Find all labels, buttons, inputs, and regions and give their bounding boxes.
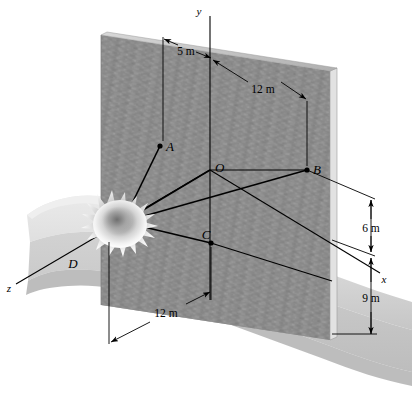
axis-label-y: y: [196, 5, 202, 17]
dimension-label-12m-top: 12 m: [251, 83, 274, 95]
axis-label-x: x: [381, 273, 387, 285]
dimension-label-12m-bottom: 12 m: [154, 307, 177, 319]
point-marker-B[interactable]: [304, 167, 309, 172]
point-label-B: B: [313, 162, 321, 177]
dimension-label-9m: 9 m: [362, 292, 380, 304]
dim-arrow-12mbot-left: [111, 322, 150, 342]
point-label-O: O: [215, 160, 225, 175]
point-label-D: D: [67, 256, 78, 271]
point-marker-A[interactable]: [157, 143, 162, 148]
wall-face-shade: [101, 35, 330, 340]
axis-label-z: z: [6, 282, 12, 294]
brick-wall: [101, 32, 337, 340]
point-label-A: A: [165, 139, 174, 154]
wall-side-thickness: [330, 68, 337, 340]
burst-core: [101, 207, 133, 235]
point-label-C: C: [202, 227, 211, 242]
dimension-label-5m: 5 m: [177, 45, 195, 57]
dimension-label-6m: 6 m: [362, 222, 380, 234]
figure-canvas: A B C D O y x z 5 m 12 m 6 m 9 m 12 m: [0, 0, 412, 408]
diagram-svg: A B C D O y x z 5 m 12 m 6 m 9 m 12 m: [0, 0, 412, 408]
